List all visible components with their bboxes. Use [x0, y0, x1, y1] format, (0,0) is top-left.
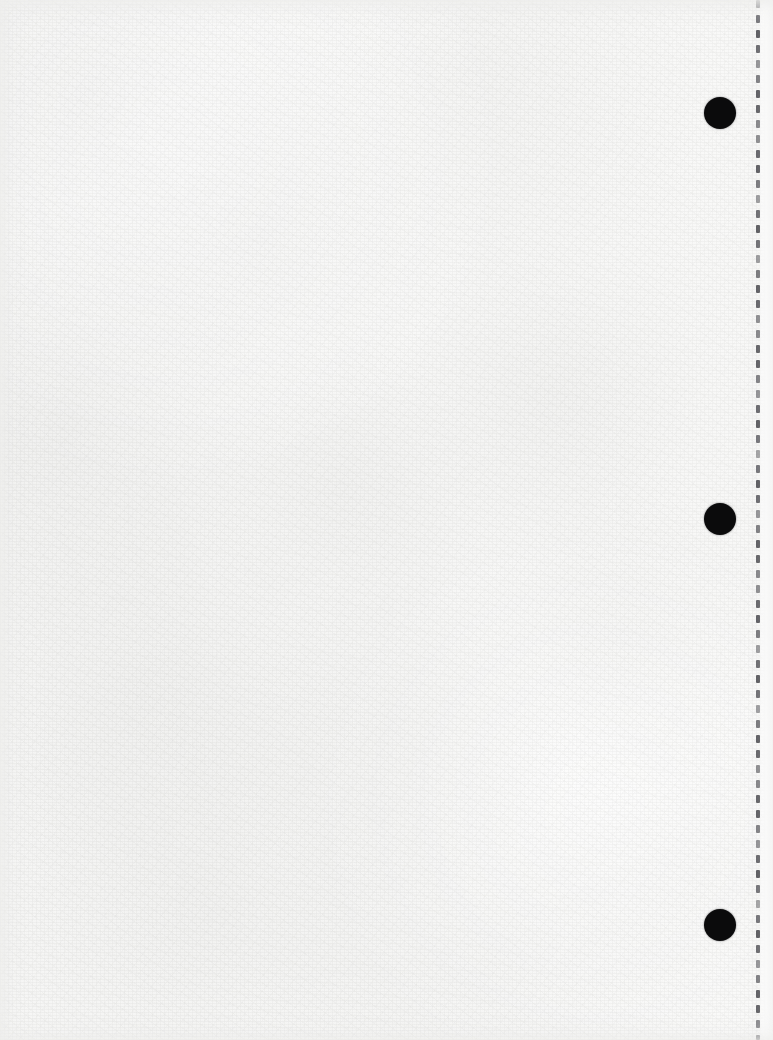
bottom-punch-hole [704, 909, 736, 941]
scanned-page [0, 0, 773, 1040]
binder-punch-hole-group [0, 0, 773, 1040]
middle-punch-hole [704, 503, 736, 535]
top-punch-hole [704, 97, 736, 129]
